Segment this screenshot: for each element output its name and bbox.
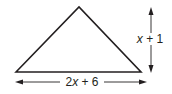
arrowhead-right-icon bbox=[139, 80, 147, 85]
arrowhead-left-icon bbox=[15, 80, 23, 85]
arrowhead-up-icon bbox=[149, 7, 154, 15]
triangle-diagram: 2x + 6 x + 1 bbox=[0, 0, 172, 94]
height-label: x + 1 bbox=[136, 32, 164, 46]
base-label: 2x + 6 bbox=[65, 75, 98, 89]
arrowhead-down-icon bbox=[149, 65, 154, 73]
triangle-shape bbox=[16, 7, 141, 72]
